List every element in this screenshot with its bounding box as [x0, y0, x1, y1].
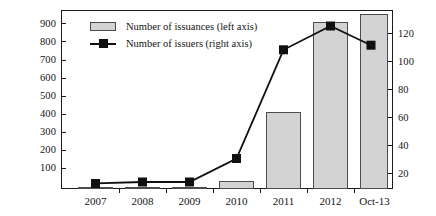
left-axis-tick-mark [61, 168, 66, 169]
right-axis-tick-mark [388, 33, 393, 34]
x-axis-label-oct-13: Oct-13 [344, 195, 405, 207]
legend-label-issuances: Number of issuances (left axis) [126, 21, 257, 32]
left-axis-tick-label: 800 [14, 36, 56, 47]
chart-legend: Number of issuances (left axis) Number o… [90, 18, 257, 52]
right-axis-tick-mark [388, 61, 393, 62]
left-axis-tick-label: 900 [14, 18, 56, 29]
right-axis-tick-mark [388, 145, 393, 146]
right-axis-tick-label: 40 [398, 140, 436, 151]
legend-item-issuers: Number of issuers (right axis) [90, 35, 257, 52]
left-axis-tick-label: 400 [14, 108, 56, 119]
left-axis-tick-label: 500 [14, 90, 56, 101]
right-axis-tick-mark [388, 117, 393, 118]
line-marker-swatch-icon [90, 39, 116, 48]
right-axis-tick-label: 100 [398, 56, 436, 67]
left-axis-tick-mark [61, 150, 66, 151]
left-axis-tick-label: 200 [14, 144, 56, 155]
bar-2012 [313, 22, 348, 189]
left-axis-tick-label: 300 [14, 126, 56, 137]
left-axis-tick-label: 100 [14, 162, 56, 173]
left-axis-tick-mark [61, 78, 66, 79]
chart-container: 900 800 700 600 500 400 300 200 100 120 … [0, 0, 436, 216]
bar-2008 [125, 187, 160, 189]
bar-2010 [219, 181, 254, 189]
bar-2007 [78, 187, 113, 189]
legend-label-issuers: Number of issuers (right axis) [126, 38, 252, 49]
left-axis-tick-label: 600 [14, 72, 56, 83]
legend-item-issuances: Number of issuances (left axis) [90, 18, 257, 35]
x-axis-tick-mark [260, 189, 261, 193]
x-axis-tick-mark [307, 189, 308, 193]
right-axis-tick-label: 60 [398, 112, 436, 123]
x-axis-tick-mark [166, 189, 167, 193]
bar-2011 [266, 112, 301, 189]
bar-oct-13 [360, 14, 388, 189]
right-axis-tick-mark [388, 173, 393, 174]
left-axis-tick-mark [61, 41, 66, 42]
left-axis-tick-mark [61, 96, 66, 97]
left-axis-tick-mark [61, 60, 66, 61]
bar-2009 [172, 187, 207, 189]
right-axis-tick-mark [388, 89, 393, 90]
right-axis-tick-label: 80 [398, 84, 436, 95]
x-axis-tick-mark [354, 189, 355, 193]
x-axis-tick-mark [213, 189, 214, 193]
left-axis-tick-mark [61, 114, 66, 115]
right-axis-tick-label: 120 [398, 28, 436, 39]
bar-swatch-icon [90, 22, 116, 31]
left-axis-tick-mark [61, 23, 66, 24]
left-axis-tick-label: 700 [14, 54, 56, 65]
x-axis-tick-mark [119, 189, 120, 193]
right-axis-tick-label: 20 [398, 168, 436, 179]
left-axis-tick-mark [61, 132, 66, 133]
